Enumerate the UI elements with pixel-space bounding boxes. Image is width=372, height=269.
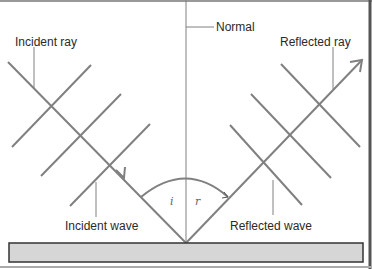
angle-arc: [141, 179, 228, 198]
reflected-wavefront-3: [281, 64, 360, 147]
incident-wave-label: Incident wave: [65, 219, 138, 233]
reflected-wavefront-2: [251, 94, 331, 178]
reflecting-surface: [9, 243, 363, 262]
normal-label: Normal: [216, 20, 255, 34]
incident-ray: [8, 62, 186, 243]
reflected-wave-label: Reflected wave: [230, 219, 312, 233]
incident-ray-label: Incident ray: [15, 35, 77, 49]
angle-incidence-symbol: i: [170, 195, 174, 208]
reflected-ray: [186, 60, 362, 243]
reflection-diagram: Normal Incident ray Reflected ray Incide…: [0, 0, 372, 269]
reflected-ray-label: Reflected ray: [280, 35, 351, 49]
angle-reflection-symbol: r: [195, 195, 200, 208]
